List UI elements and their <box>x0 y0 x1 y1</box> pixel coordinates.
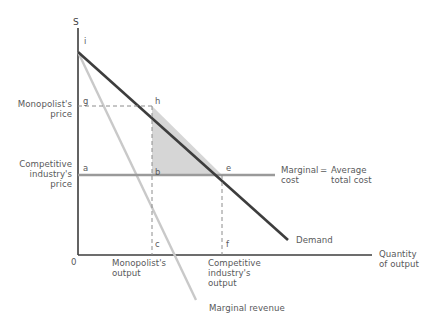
competitive-output-label-line2: industry's <box>208 268 251 278</box>
point-label-a: a <box>83 164 88 173</box>
economics-diagram: S 0 i g h a b c e f Monopolist's price C… <box>0 0 441 328</box>
competitive-output-label-line3: output <box>208 278 237 288</box>
competitive-price-label-line1: Competitive <box>0 159 72 169</box>
competitive-price-label-line2: industry's <box>0 169 72 179</box>
average-total-cost-label-line2: total cost <box>331 175 372 185</box>
x-axis-label-line1: Quantity <box>379 249 417 259</box>
point-label-i: i <box>84 37 86 46</box>
point-label-f: f <box>226 240 229 249</box>
point-label-h: h <box>155 97 160 106</box>
demand-curve <box>78 52 288 240</box>
deadweight-loss-triangle <box>152 106 222 175</box>
point-label-e: e <box>226 164 231 173</box>
competitive-output-label-line1: Competitive <box>208 258 261 268</box>
marginal-cost-label-line1: Marginal <box>281 165 318 175</box>
y-axis-label: S <box>73 17 79 27</box>
marginal-cost-label-line2: cost <box>281 175 299 185</box>
competitive-price-label-line3: price <box>0 179 72 189</box>
monopolist-price-label-line2: price <box>0 109 72 119</box>
monopolist-output-label-line1: Monopolist's <box>112 258 166 268</box>
point-label-g: g <box>83 97 88 106</box>
x-axis-label-line2: of output <box>379 259 419 269</box>
origin-label: 0 <box>71 257 77 267</box>
monopolist-output-label-line2: output <box>112 268 141 278</box>
point-label-c: c <box>155 240 160 249</box>
cost-equals-sign: = <box>320 165 327 175</box>
monopolist-price-label-line1: Monopolist's <box>0 99 72 109</box>
average-total-cost-label-line1: Average <box>331 165 367 175</box>
marginal-revenue-curve-label: Marginal revenue <box>209 303 285 313</box>
point-label-b: b <box>155 168 160 177</box>
demand-curve-label: Demand <box>296 235 333 245</box>
